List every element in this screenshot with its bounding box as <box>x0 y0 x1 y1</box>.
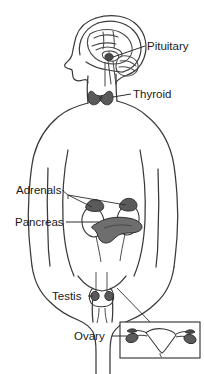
pituitary-label: Pituitary <box>147 40 189 52</box>
thyroid-label: Thyroid <box>133 88 171 100</box>
testis-label: Testis <box>52 290 82 302</box>
pancreas-label: Pancreas <box>15 216 64 228</box>
pituitary-gland <box>105 51 113 60</box>
pancreas-organ <box>92 217 142 243</box>
thyroid-gland-bowtie <box>88 91 113 105</box>
anatomical-figure-svg: Pituitary Thyroid Adrenals <box>0 0 204 374</box>
uterus-with-ovaries-inset-box <box>117 288 200 358</box>
adrenals-label: Adrenals <box>16 184 62 196</box>
adrenal-gland-pair <box>86 198 137 211</box>
endocrine-diagram: Pituitary Thyroid Adrenals <box>0 0 204 374</box>
thyroid-leader-line <box>113 94 131 97</box>
ovary-label: Ovary <box>74 330 105 342</box>
